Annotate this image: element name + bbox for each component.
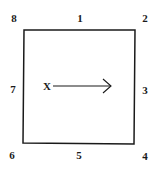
position-label-6: 6 bbox=[9, 150, 15, 161]
square bbox=[23, 30, 135, 144]
position-label-7: 7 bbox=[10, 84, 16, 95]
position-label-8: 8 bbox=[11, 13, 17, 24]
position-label-4: 4 bbox=[142, 151, 148, 162]
position-label-3: 3 bbox=[142, 85, 148, 96]
position-label-5: 5 bbox=[76, 150, 82, 161]
center-label-x: X bbox=[43, 81, 51, 92]
position-label-1: 1 bbox=[77, 13, 83, 24]
diagram-canvas bbox=[0, 0, 155, 170]
position-label-2: 2 bbox=[142, 13, 148, 24]
